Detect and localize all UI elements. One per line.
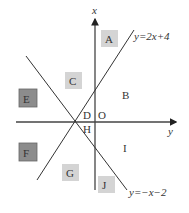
region-c: C [69,75,76,87]
region-j: J [102,179,107,191]
region-a: A [105,33,113,45]
region-d: D [83,109,91,121]
region-i: I [123,142,127,154]
equation-line1: y=2x+4 [133,30,170,42]
region-j-box [98,176,115,193]
region-b: B [122,89,129,101]
region-f: F [23,147,29,159]
x-axis-label: x [91,4,97,16]
diagram: x y O y=2x+4 y=−x−2 A B C D E F G H I J [0,0,189,213]
equation-line2: y=−x−2 [128,186,167,198]
region-g: G [66,167,74,179]
region-e: E [23,93,30,105]
line-y-2x-plus-4 [37,30,134,180]
y-axis-label: y [167,125,173,137]
region-h: H [83,123,91,135]
origin-label: O [98,109,106,121]
